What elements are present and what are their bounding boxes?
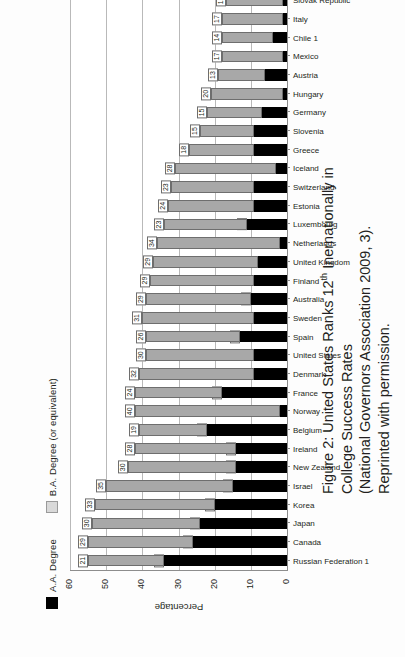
bar-segment-ba: 32: [138, 368, 254, 380]
bar-segment-aa: 4: [272, 32, 286, 44]
bar-segment-ba: 18: [189, 144, 254, 156]
bar-segment-ba: 19: [138, 424, 207, 436]
bar-group: 924Estonia: [167, 200, 286, 212]
bar-value-label-ba: 31: [132, 312, 142, 325]
bar-group: 117Mexico: [221, 51, 286, 63]
bar-segment-ba: 29: [88, 536, 193, 548]
legend-label-aa: A.A. Degree: [46, 539, 57, 592]
bar-segment-aa: 20: [214, 499, 286, 511]
figure-caption-block: Figure 2: United States Ranks 12th Inern…: [313, 0, 399, 657]
bar-value-label-ba: 28: [125, 442, 135, 455]
bar-group: 1430New Zealand: [127, 462, 286, 474]
bar-value-label-ba: 21: [78, 554, 88, 567]
gridline: [70, 0, 71, 570]
bar-group: 1123Luxembourg: [164, 219, 287, 231]
value-axis-tick-label: 30: [172, 579, 182, 589]
category-axis-label: Italy: [293, 15, 308, 24]
bar-value-label-ba: 26: [135, 330, 145, 343]
bar-group: 240Norway: [135, 406, 287, 418]
legend-item-ba: B.A. Degree (or equivalent): [46, 379, 58, 514]
bar-group: 116Slovak Republic: [225, 0, 286, 6]
bar-segment-ba: 31: [142, 312, 254, 324]
bar-segment-ba: 40: [135, 406, 280, 418]
bar-value-label-ba: 20: [201, 88, 211, 101]
bar-value-label-ba: 28: [164, 162, 174, 175]
bar-value-label-ba: 29: [78, 536, 88, 549]
bar-group: 932Denmark: [138, 368, 286, 380]
bar-segment-aa: 26: [192, 536, 286, 548]
legend-item-aa: A.A. Degree: [46, 539, 58, 609]
bar-value-label-ba: 23: [161, 181, 171, 194]
caption-line-2: (National Governors Association 2009, 3)…: [357, 225, 392, 493]
bar-segment-aa: 2: [279, 238, 286, 250]
bar-segment-aa: 1: [283, 51, 287, 63]
bar-value-label-ba: 34: [146, 237, 156, 250]
category-axis-label: Israel: [293, 482, 313, 491]
bar-value-label-ba: 24: [157, 200, 167, 213]
legend-swatch-aa-icon: [46, 597, 58, 609]
bar-segment-aa: 3: [276, 163, 287, 175]
bar-value-label-ba: 29: [143, 256, 153, 269]
bar-value-label-ba: 35: [96, 480, 106, 493]
category-axis-label: Spain: [293, 332, 313, 341]
bar-segment-ba: 34: [156, 238, 279, 250]
category-axis-label: Korea: [293, 500, 314, 509]
bar-segment-aa: 14: [236, 443, 287, 455]
bar-segment-aa: 10: [250, 294, 286, 306]
bar-value-label-ba: 18: [179, 144, 189, 157]
bar-value-label-ba: 29: [139, 274, 149, 287]
bar-segment-ba: 28: [174, 163, 275, 175]
bar-value-label-ba: 17: [211, 50, 221, 63]
bar-segment-aa: 13: [239, 331, 286, 343]
bar-segment-ba: 13: [218, 69, 265, 81]
bar-segment-aa: 9: [254, 126, 287, 138]
value-axis-tick-label: 60: [64, 579, 74, 589]
bar-segment-ba: 15: [207, 107, 261, 119]
bar-group: 715Germany: [207, 107, 287, 119]
bar-segment-aa: 14: [236, 462, 287, 474]
bar-group: 117Italy: [221, 13, 286, 25]
bar-group: 918Greece: [189, 144, 287, 156]
bar-segment-aa: 18: [221, 387, 286, 399]
bar-segment-aa: 9: [254, 350, 287, 362]
bar-segment-ba: 30: [145, 350, 254, 362]
bar-segment-aa: 9: [254, 144, 287, 156]
bar-segment-aa: 1: [283, 13, 287, 25]
bar-segment-aa: 9: [254, 200, 287, 212]
caption-prefix: Figure 2: United States Ranks 12: [320, 280, 336, 494]
bar-value-label-ba: 19: [128, 424, 138, 437]
bar-segment-ba: 21: [88, 555, 164, 567]
bar-group: 613Austria: [218, 69, 287, 81]
bar-value-label-ba: 15: [190, 125, 200, 138]
bar-value-label-ba: 30: [135, 349, 145, 362]
bar-value-label-ba: 30: [81, 517, 91, 530]
bar-value-label-ba: 13: [208, 69, 218, 82]
bar-group: 931Sweden: [142, 312, 287, 324]
bar-segment-ba: 29: [149, 275, 254, 287]
plot-region: 3421Russian Federation 12629Canada2430Ja…: [70, 0, 288, 571]
bar-value-label-ba: 14: [211, 32, 221, 45]
bar-segment-ba: 23: [171, 182, 254, 194]
bar-group: 2033Korea: [95, 499, 287, 511]
bar-segment-aa: 1: [283, 88, 287, 100]
bar-segment-ba: 29: [153, 256, 258, 268]
bar-segment-ba: 17: [221, 51, 282, 63]
bar-segment-ba: 28: [135, 443, 236, 455]
bar-value-label-ba: 30: [117, 461, 127, 474]
bar-group: 234Netherlands: [156, 238, 286, 250]
bar-segment-ba: 29: [145, 294, 250, 306]
bar-segment-aa: 6: [265, 69, 287, 81]
value-axis-title: Percentage: [154, 602, 203, 613]
value-axis-tick-label: 50: [100, 579, 110, 589]
bar-group: 1428Ireland: [135, 443, 287, 455]
bar-segment-ba: 24: [167, 200, 254, 212]
bar-segment-ba: 30: [127, 462, 236, 474]
bar-segment-ba: 14: [221, 32, 272, 44]
bar-segment-aa: 1: [283, 0, 287, 6]
bar-segment-aa: 34: [164, 555, 287, 567]
bar-value-label-ba: 29: [135, 293, 145, 306]
bar-segment-ba: 16: [225, 0, 283, 6]
bar-segment-aa: 22: [207, 424, 287, 436]
figure-page: A.A. Degree B.A. Degree (or equivalent) …: [0, 0, 405, 657]
bar-segment-ba: 26: [145, 331, 239, 343]
